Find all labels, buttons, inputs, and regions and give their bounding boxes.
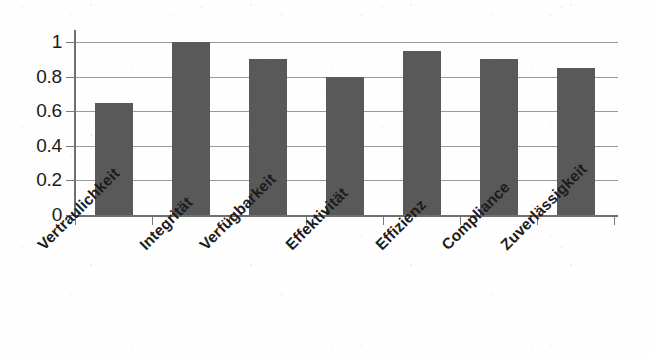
chart-page: 1 0.8 0.6 0.4 0.2 0 Vertraulichkeit Inte…	[0, 0, 651, 356]
cat-label-effektivitaet: Effektivität	[282, 184, 352, 254]
cat-label-effizienz: Effizienz	[372, 196, 430, 254]
cat-label-verfuegbarkeit: Verfügbarkeit	[196, 170, 280, 254]
cat-label-integritaet: Integrität	[136, 193, 196, 253]
x-axis-category-labels: Vertraulichkeit Integrität Verfügbarkeit…	[0, 0, 651, 356]
bar-chart: 1 0.8 0.6 0.4 0.2 0 Vertraulichkeit Inte…	[0, 0, 651, 356]
cat-label-vertraulichkeit: Vertraulichkeit	[34, 164, 123, 253]
cat-label-zuverlaessigkeit: Zuverlässigkeit	[497, 160, 591, 254]
